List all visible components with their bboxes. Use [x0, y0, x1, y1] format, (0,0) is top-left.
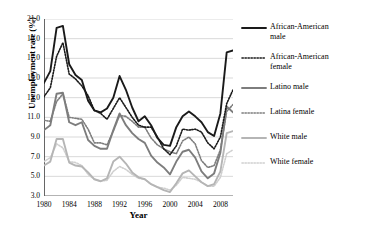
legend-item[interactable]: White female [241, 157, 368, 169]
x-tick-label: 2008 [213, 201, 228, 209]
chart-canvas [44, 19, 233, 196]
y-tick-label: 15.0 [0, 74, 44, 82]
legend-line-swatch-icon [241, 52, 267, 64]
legend-line-swatch-icon [241, 82, 267, 94]
legend-item[interactable]: White male [241, 132, 368, 144]
legend-line-swatch-icon [241, 157, 267, 169]
x-tick-label: 1992 [112, 201, 127, 209]
x-tick-label: 1996 [137, 201, 152, 209]
x-tick-label: 1980 [37, 201, 52, 209]
y-tick-label: 9.0 [0, 133, 44, 141]
x-tick-label: 1984 [62, 201, 77, 209]
series-line [44, 93, 233, 179]
legend-line-swatch-icon [241, 22, 267, 34]
y-tick-label: 11.0 [0, 114, 44, 122]
legend-label: Latino male [270, 82, 368, 92]
plot-area: 3.05.07.09.011.013.015.017.019.021.0 198… [44, 19, 233, 196]
y-tick-label: 13.0 [0, 94, 44, 102]
x-axis-title: Year [44, 210, 233, 220]
y-tick-label: 3.0 [0, 192, 44, 200]
x-tick-label: 1988 [87, 201, 102, 209]
legend-label: Latina female [270, 107, 368, 117]
legend-item[interactable]: Latino male [241, 82, 368, 94]
y-tick-label: 19.0 [0, 35, 44, 43]
legend-label: White female [270, 157, 368, 167]
legend-item[interactable]: African-American male [241, 22, 368, 41]
x-tick-label: 2000 [163, 201, 178, 209]
unemployment-rate-line-chart: Unemployment rate (%) 3.05.07.09.011.013… [0, 0, 372, 234]
y-tick-label: 5.0 [0, 173, 44, 181]
legend-line-swatch-icon [241, 132, 267, 144]
legend-label: African-American male [270, 22, 368, 41]
legend-label: White male [270, 132, 368, 142]
y-tick-label: 17.0 [0, 55, 44, 63]
legend-item[interactable]: Latina female [241, 107, 368, 119]
axis-lines [45, 19, 234, 196]
x-tick-label: 2004 [188, 201, 203, 209]
y-tick-label: 7.0 [0, 153, 44, 161]
legend-line-swatch-icon [241, 107, 267, 119]
y-tick-label: 21.0 [0, 15, 44, 23]
legend-label: African-American female [270, 52, 368, 71]
legend-item[interactable]: African-American female [241, 52, 368, 71]
